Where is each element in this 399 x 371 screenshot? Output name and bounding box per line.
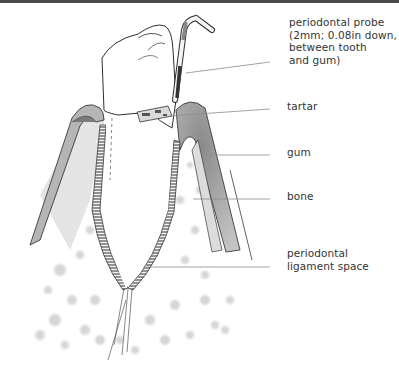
periodontal-probe-instrument [175, 18, 212, 100]
label-gum: gum [287, 146, 311, 159]
label-tartar: tartar [287, 100, 317, 113]
label-periodontal-ligament-space: periodontal ligament space [287, 247, 369, 272]
label-bone: bone [287, 190, 314, 203]
label-periodontal-probe: periodontal probe (2mm; 0.08in down, bet… [289, 16, 397, 66]
tooth-root [106, 118, 174, 288]
